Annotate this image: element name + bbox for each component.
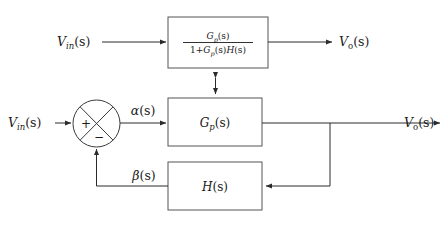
plant-block-label: Gp(s) xyxy=(200,116,231,132)
diagram-canvas: Vin(s) Vo(s) Gp(s) 1+Gp(s)H(s) xyxy=(0,0,448,225)
summing-plus-sign: + xyxy=(81,117,91,131)
transfer-function-denominator: 1+Gp(s)H(s) xyxy=(190,45,246,58)
transfer-function-numerator: Gp(s) xyxy=(206,31,229,44)
bottom-diagram-group: + − Vin(s) Vo(s) xyxy=(8,98,440,210)
summing-minus-sign: − xyxy=(94,130,104,144)
top-input-label: Vin(s) xyxy=(57,34,90,51)
block-diagram-figure: Vin(s) Vo(s) Gp(s) 1+Gp(s)H(s) xyxy=(0,0,448,225)
error-signal-label: α(s) xyxy=(131,103,156,118)
feedback-block-label: H(s) xyxy=(201,180,228,194)
feedback-signal-label: β(s) xyxy=(131,168,155,183)
top-diagram-group: Vin(s) Vo(s) Gp(s) 1+Gp(s)H(s) xyxy=(57,17,369,68)
top-output-label: Vo(s) xyxy=(339,34,369,51)
bottom-input-label: Vin(s) xyxy=(8,115,41,132)
bottom-output-label: Vo(s) xyxy=(404,115,434,132)
